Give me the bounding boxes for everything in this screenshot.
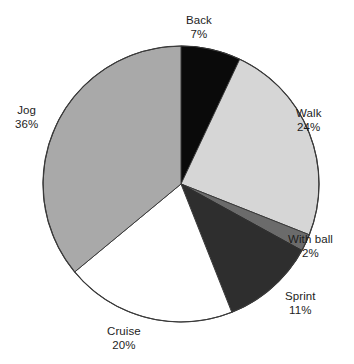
- slice-label-cruise-value: 20%: [107, 339, 141, 353]
- pie-chart-figure: Back 7% Walk 24% With ball 2% Sprint 11%…: [0, 0, 354, 364]
- slice-label-with-ball-name: With ball: [288, 233, 333, 247]
- slice-label-sprint-value: 11%: [285, 304, 316, 318]
- slice-label-sprint-name: Sprint: [285, 290, 316, 304]
- slice-label-sprint: Sprint 11%: [285, 290, 316, 317]
- slice-label-back-name: Back: [186, 14, 212, 28]
- slice-label-jog-value: 36%: [15, 118, 38, 132]
- slice-label-jog: Jog 36%: [15, 104, 38, 131]
- slice-label-with-ball-value: 2%: [288, 247, 333, 261]
- slice-label-cruise-name: Cruise: [107, 325, 141, 339]
- slice-label-walk: Walk 24%: [296, 107, 322, 134]
- slice-label-walk-name: Walk: [296, 107, 322, 121]
- slice-label-back-value: 7%: [186, 28, 212, 42]
- slice-label-with-ball: With ball 2%: [288, 233, 333, 260]
- slice-label-back: Back 7%: [186, 14, 212, 41]
- slice-label-walk-value: 24%: [296, 121, 322, 135]
- slice-label-jog-name: Jog: [15, 104, 38, 118]
- pie-slice-group: [43, 46, 319, 322]
- slice-label-cruise: Cruise 20%: [107, 325, 141, 352]
